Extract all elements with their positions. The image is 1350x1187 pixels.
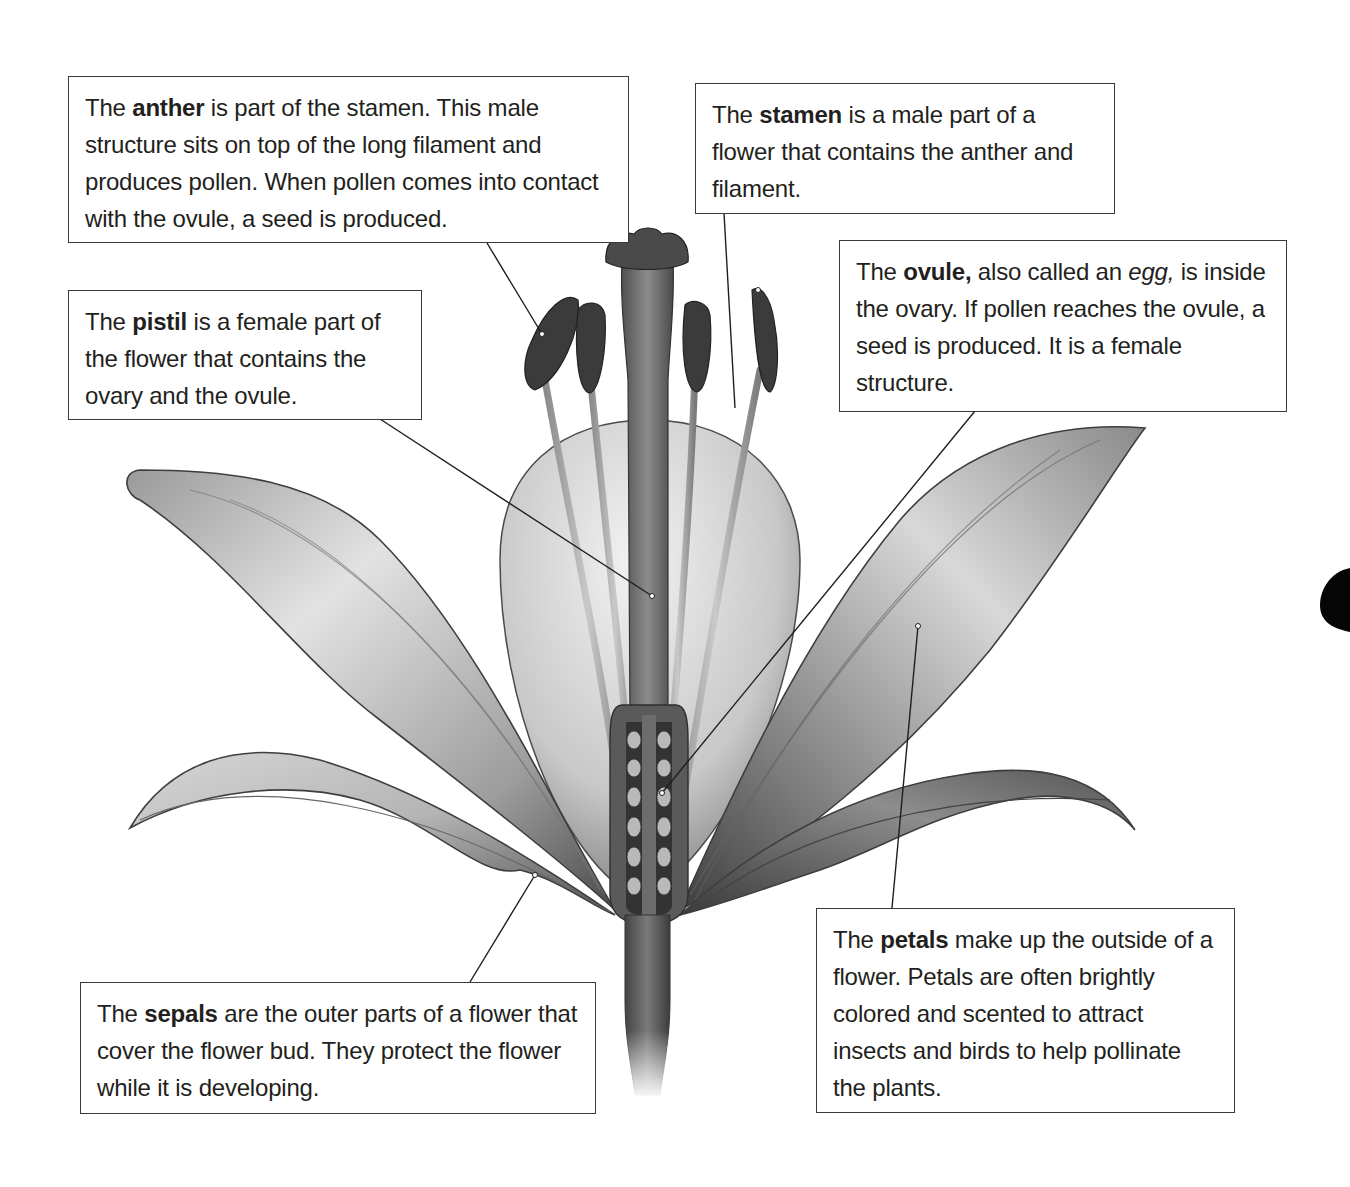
pistil-style xyxy=(622,260,674,720)
callout-text: The xyxy=(856,258,903,285)
callout-text: The xyxy=(85,308,132,335)
term-petals: petals xyxy=(880,926,948,953)
callout-text: The xyxy=(85,94,132,121)
callout-text: The xyxy=(712,101,759,128)
page-edge-tab xyxy=(1320,568,1350,632)
leader-sepals xyxy=(470,875,535,982)
term-ovule: ovule, xyxy=(903,258,971,285)
callout-ovule: The ovule, also called an egg, is inside… xyxy=(839,240,1287,412)
callout-anther: The anther is part of the stamen. This m… xyxy=(68,76,629,243)
callout-pistil: The pistil is a female part of the flowe… xyxy=(68,290,422,420)
callout-text: also called an xyxy=(971,258,1128,285)
term-stamen: stamen xyxy=(759,101,842,128)
leader-stamen xyxy=(724,213,735,408)
callout-stamen: The stamen is a male part of a flower th… xyxy=(695,83,1115,214)
callout-text: The xyxy=(97,1000,144,1027)
leader-anther xyxy=(487,243,542,334)
term-anther: anther xyxy=(132,94,204,121)
callout-petals: The petals make up the outside of a flow… xyxy=(816,908,1235,1113)
callout-sepals: The sepals are the outer parts of a flow… xyxy=(80,982,596,1114)
ovary xyxy=(610,705,688,925)
term-egg: egg, xyxy=(1128,258,1174,285)
term-pistil: pistil xyxy=(132,308,187,335)
term-sepals: sepals xyxy=(144,1000,218,1027)
callout-text: The xyxy=(833,926,880,953)
